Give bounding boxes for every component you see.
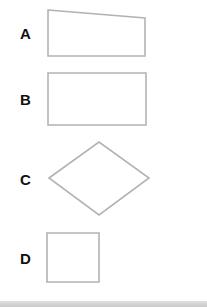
shape-a-trapezoid — [48, 10, 145, 56]
shape-c-rhombus — [49, 142, 149, 215]
shape-d-square — [47, 233, 99, 282]
bottom-divider — [0, 301, 207, 307]
shape-b-rectangle — [48, 73, 146, 125]
shapes-canvas — [0, 0, 207, 307]
